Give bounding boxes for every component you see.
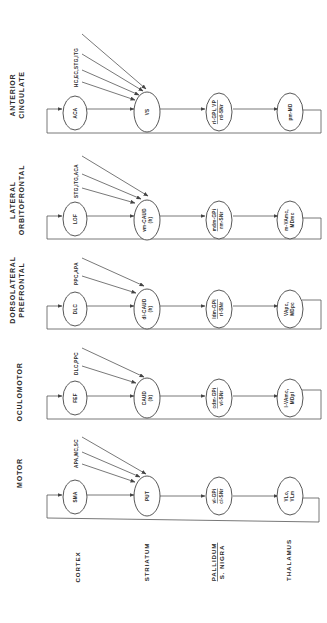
loop-title: OCULOMOTOR [16, 362, 23, 421]
striatum-node-label: (h) [148, 305, 153, 312]
loop-title: ANTERIOR [9, 74, 16, 117]
column-labels: CORTEX STRIATUM PALLIDUM S. NIGRA THALAM… [74, 539, 292, 583]
column-label-s-nigra: S. NIGRA [218, 545, 225, 580]
input-sources-label: PPC,APA [74, 262, 79, 285]
striatum-node [134, 378, 160, 418]
loop-title: DORSOLATERAL [9, 256, 16, 323]
striatum-node [134, 200, 160, 240]
striatum-node-label: vm-CAUD [142, 208, 147, 232]
thalamus-node-label: l-VAmc, [284, 389, 289, 408]
pallidum-node-label-top: ldm-GPi [212, 299, 217, 319]
striatum-node-label: PUT [145, 491, 150, 501]
pallidum-node-label-bottom: rl-SNr [219, 302, 224, 317]
striatum-node-label: CAUD [142, 390, 147, 405]
input-sources-label: DLC,PPC [74, 352, 79, 375]
striatum-node-label: (b) [148, 394, 153, 401]
loop-title: LATERAL [9, 181, 16, 219]
input-arrow [82, 258, 144, 286]
loop-lateral-orbitofrontal: LATERAL ORBITOFRONTAL STG,ITG,ACA LOF vm… [9, 156, 321, 240]
input-sources-label: APA,MC,SC [74, 439, 79, 468]
pallidum-node-label-bottom: rd-SNr [219, 104, 224, 120]
loop-title: ORBITOFRONTAL [18, 165, 25, 235]
thalamus-node-label: VApc, [284, 302, 289, 316]
input-arrow [82, 70, 139, 95]
pallidum-node-label-top: vl-GPi [212, 488, 217, 503]
input-arrow [82, 437, 146, 474]
input-sources-label: STG,ITG,ACA [74, 164, 79, 198]
loop-dorsolateral-prefrontal: DORSOLATERAL PREFRONTAL PPC,APA DLC dl-C… [9, 256, 321, 329]
pallidum-node-label-bottom: rm-SNr [219, 211, 224, 228]
thalamus-node-label: MDpl [290, 392, 295, 404]
circuit-diagram: ANTERIOR CINGULATE HC,EC,STG,ITG ACA VS … [0, 0, 327, 623]
cortex-node-label: DLC [73, 303, 78, 314]
loop-title: MOTOR [16, 458, 23, 488]
input-arrow [82, 34, 146, 89]
cortex-node-label: LOF [73, 214, 78, 224]
input-arrow [82, 464, 135, 482]
thalamus-node-label: pm-MD [288, 103, 293, 120]
striatum-node-label: (h) [148, 216, 153, 223]
striatum-node-label: VS [145, 109, 150, 116]
cortex-node-label: SMA [73, 491, 78, 502]
loop-title: CINGULATE [18, 71, 25, 119]
pallidum-node-label-bottom: vl-SNr [219, 390, 224, 405]
cortex-node-label: FEF [73, 393, 78, 403]
thalamus-node-label: VLm [290, 491, 295, 502]
loop-oculomotor: OCULOMOTOR DLC,PPC FEF CAUD (b) cdm-GPi … [16, 348, 321, 422]
input-arrow [82, 82, 135, 100]
column-label-cortex: CORTEX [74, 551, 81, 582]
loop-anterior-cingulate: ANTERIOR CINGULATE HC,EC,STG,ITG ACA VS … [9, 34, 321, 133]
thalamus-node-label: m-VAmc, [284, 209, 289, 231]
cortex-node-label: ACA [73, 107, 78, 118]
input-arrow [82, 188, 135, 203]
column-label-pallidum: PALLIDUM [210, 543, 217, 582]
striatum-node [134, 289, 160, 329]
input-arrow [82, 452, 140, 477]
pallidum-node-label-top: mdm-GPi [212, 209, 217, 232]
pallidum-node-label-bottom: cl-SNr [219, 488, 224, 503]
loop-title: PREFRONTAL [18, 262, 25, 317]
pallidum-node-label-top: cdm-GPi [212, 388, 217, 409]
input-sources-label: HC,EC,STG,ITG [74, 48, 79, 87]
input-arrow [82, 348, 144, 377]
thalamus-node-label: MDmc [290, 212, 295, 227]
pallidum-node-label-top: rl-GPi, VP [212, 100, 217, 124]
striatum-node-label: dl-CAUD [142, 298, 147, 319]
column-label-thalamus: THALAMUS [285, 539, 292, 581]
thalamus-node-label: MDpc [290, 302, 295, 316]
input-arrow [82, 156, 148, 196]
thalamus-node-label: VLo, [284, 490, 289, 501]
loop-motor: MOTOR APA,MC,SC SMA PUT vl-GPi cl-SNr VL… [16, 437, 319, 522]
column-label-striatum: STRIATUM [143, 543, 150, 582]
input-arrow [82, 366, 136, 383]
